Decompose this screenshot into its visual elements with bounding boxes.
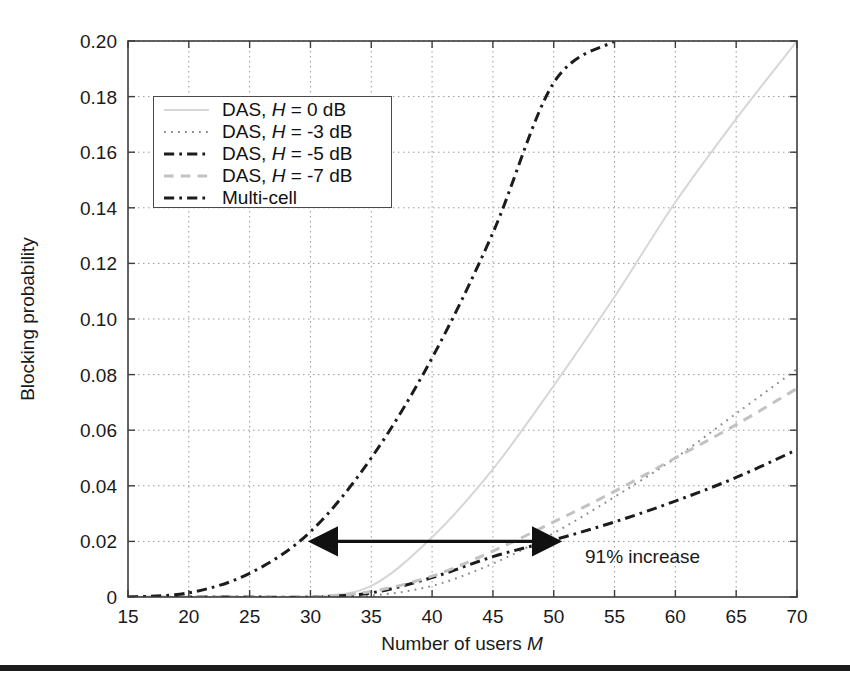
bottom-divider-rule — [0, 665, 850, 671]
y-tick-label: 0 — [106, 587, 117, 608]
x-tick-label: 60 — [665, 606, 686, 627]
x-tick-label: 65 — [726, 606, 747, 627]
x-tick-label: 35 — [361, 606, 382, 627]
x-tick-label: 55 — [604, 606, 625, 627]
x-tick-label: 25 — [239, 606, 260, 627]
annotation-label: 91% increase — [585, 546, 700, 567]
y-tick-label: 0.04 — [80, 476, 117, 497]
legend-line-sample — [163, 147, 210, 161]
figure-container: 152025303540455055606570 00.020.040.060.… — [0, 0, 850, 689]
x-tick-label: 20 — [178, 606, 199, 627]
legend-item-label: DAS, H = -3 dB — [222, 122, 352, 142]
x-tick-label: 70 — [786, 606, 807, 627]
chart-legend: DAS, H = 0 dBDAS, H = -3 dBDAS, H = -5 d… — [153, 96, 392, 208]
y-axis-title: Blocking probability — [17, 237, 38, 401]
legend-line-sample — [163, 125, 210, 139]
y-axis-tick-labels: 00.020.040.060.080.100.120.140.160.180.2… — [80, 31, 117, 608]
legend-line-sample — [163, 191, 210, 205]
legend-item-label: DAS, H = 0 dB — [222, 100, 346, 120]
y-tick-label: 0.06 — [80, 420, 117, 441]
chart-canvas: 152025303540455055606570 00.020.040.060.… — [0, 0, 850, 689]
x-tick-label: 15 — [117, 606, 138, 627]
x-tick-label: 30 — [300, 606, 321, 627]
legend-item: DAS, H = -5 dB — [154, 143, 391, 165]
y-tick-label: 0.18 — [80, 87, 117, 108]
legend-item-label: DAS, H = -5 dB — [222, 144, 352, 164]
x-tick-label: 40 — [422, 606, 443, 627]
y-tick-label: 0.10 — [80, 309, 117, 330]
y-tick-label: 0.14 — [80, 198, 117, 219]
x-tick-label: 50 — [543, 606, 564, 627]
x-axis-tick-labels: 152025303540455055606570 — [117, 606, 807, 627]
y-tick-label: 0.02 — [80, 531, 117, 552]
y-tick-label: 0.20 — [80, 31, 117, 52]
legend-line-sample — [163, 169, 210, 183]
legend-item-label: Multi-cell — [222, 188, 297, 208]
x-axis-title: Number of users M — [381, 633, 543, 654]
legend-line-sample — [163, 103, 210, 117]
y-tick-label: 0.12 — [80, 253, 117, 274]
x-tick-label: 45 — [482, 606, 503, 627]
y-tick-label: 0.16 — [80, 142, 117, 163]
legend-item: DAS, H = -3 dB — [154, 121, 391, 143]
legend-item: DAS, H = 0 dB — [154, 99, 391, 121]
legend-item: Multi-cell — [154, 187, 391, 209]
y-tick-label: 0.08 — [80, 365, 117, 386]
legend-item-label: DAS, H = -7 dB — [222, 166, 352, 186]
legend-item: DAS, H = -7 dB — [154, 165, 391, 187]
legend-item-list: DAS, H = 0 dBDAS, H = -3 dBDAS, H = -5 d… — [154, 99, 391, 209]
